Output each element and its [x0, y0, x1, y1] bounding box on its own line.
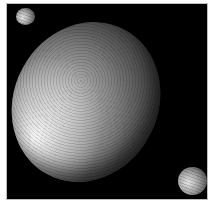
space-image-frame	[6, 3, 208, 200]
elongated-dwarf-planet	[0, 0, 188, 203]
moon-bottom-right	[178, 167, 207, 195]
small-moon-top-left	[16, 8, 35, 25]
